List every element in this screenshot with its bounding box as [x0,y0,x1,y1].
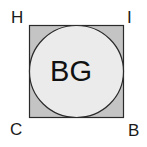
vertex-label-b: B [128,121,139,140]
circle-label: BG [50,55,92,87]
square-circle-diagram: BG H I C B [0,0,147,147]
vertex-label-c: C [10,120,22,139]
vertex-label-h: H [11,8,23,27]
vertex-label-i: I [127,8,132,27]
